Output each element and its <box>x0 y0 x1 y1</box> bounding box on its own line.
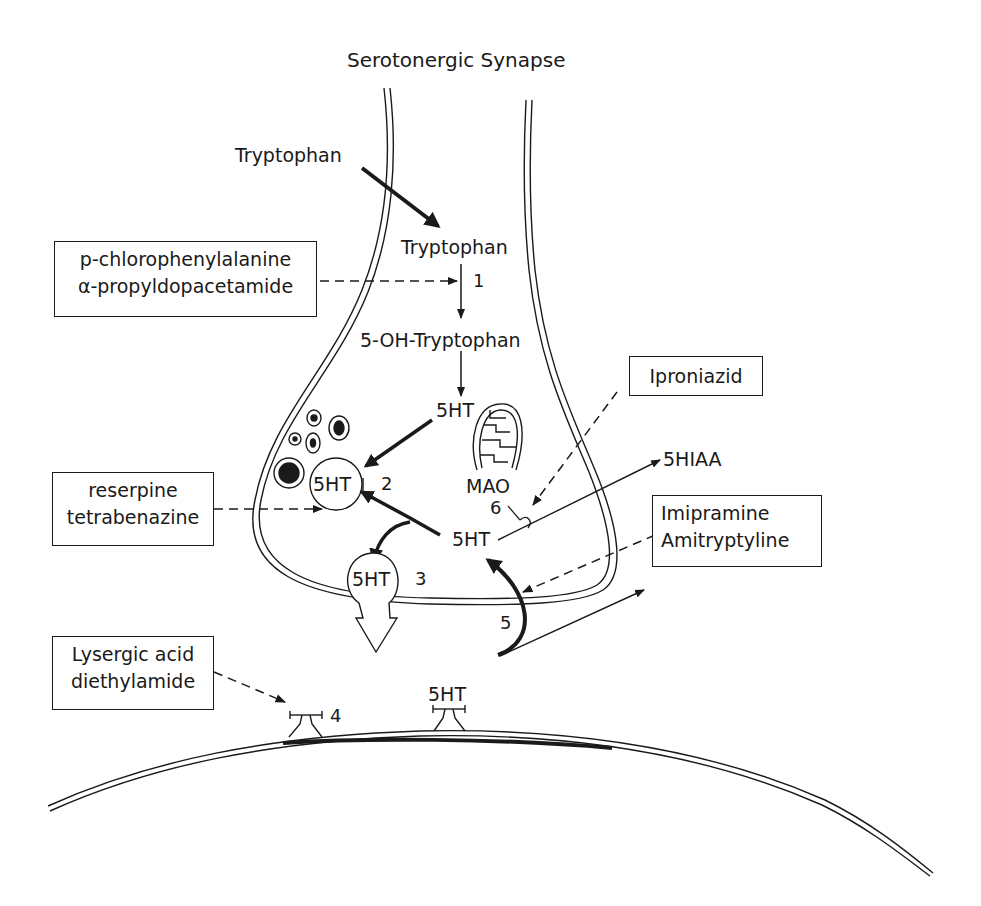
drug-imipramine: Imipramine <box>661 500 813 527</box>
diagram-title: Serotonergic Synapse <box>347 50 565 70</box>
synapse-diagram <box>0 0 981 906</box>
mitochondrion <box>473 404 522 470</box>
reuptake-inhibition-arrow <box>523 535 655 592</box>
tryptophan-intracellular-label: Tryptophan <box>401 238 508 257</box>
tryptophan-uptake-arrow <box>362 168 438 226</box>
step-2-label: 2 <box>381 475 392 493</box>
drug-alpha-propyldopacetamide: α-propyldopacetamide <box>63 273 308 300</box>
synthesis-inhibitors-box: p-chlorophenylalanine α-propyldopacetami… <box>54 241 317 317</box>
drug-p-chlorophenylalanine: p-chlorophenylalanine <box>63 246 308 273</box>
serotonin-cytoplasm-label: 5HT <box>436 401 474 420</box>
reuptake-inhibitors-box: Imipramine Amitryptyline <box>652 495 822 567</box>
serotonin-free-label: 5HT <box>452 530 490 549</box>
step-3-label: 3 <box>415 570 426 588</box>
five-oh-tryptophan-label: 5-OH-Tryptophan <box>360 331 521 350</box>
step-4-label: 4 <box>330 707 341 725</box>
tryptophan-extracellular-label: Tryptophan <box>235 146 342 165</box>
drug-diethylamide: diethylamide <box>61 668 205 695</box>
receptor-binding-arrow <box>214 672 285 702</box>
storage-inhibitors-box: reserpine tetrabenazine <box>52 472 214 546</box>
drug-tetrabenazine: tetrabenazine <box>61 504 205 531</box>
5hiaa-label: 5HIAA <box>663 450 722 469</box>
receptor-agent-box: Lysergic acid diethylamide <box>52 636 214 710</box>
uptake-to-vesicle-arrow <box>366 420 432 466</box>
step-5-label: 5 <box>500 614 511 632</box>
serotonin-vesicle-label: 5HT <box>313 475 351 494</box>
degradation-arrow <box>498 460 660 540</box>
step-1-label: 1 <box>473 272 484 290</box>
drug-reserpine: reserpine <box>61 477 205 504</box>
receptor-5ht <box>433 705 465 731</box>
free-to-vesicle-arrow <box>362 492 440 535</box>
serotonin-exocytosis-label: 5HT <box>352 570 390 589</box>
drug-amitryptyline: Amitryptyline <box>661 527 813 554</box>
mao-label: MAO <box>466 477 510 496</box>
drug-iproniazid: Iproniazid <box>638 361 754 391</box>
mao-inhibitor-box: Iproniazid <box>629 356 763 396</box>
step-6-label: 6 <box>490 499 501 517</box>
serotonin-receptor-label: 5HT <box>428 685 466 704</box>
postsynaptic-membrane <box>48 731 933 876</box>
drug-lysergic-acid: Lysergic acid <box>61 641 205 668</box>
reuptake-arrow <box>488 560 525 655</box>
receptor-4 <box>289 711 322 737</box>
